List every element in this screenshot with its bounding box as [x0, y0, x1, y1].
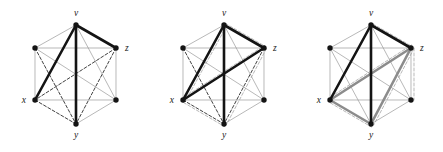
ghost-edge-v-z	[225, 24, 265, 47]
vertex-label-y: y	[368, 130, 374, 140]
vertex-label-y: y	[73, 130, 79, 140]
vertex-node-z	[113, 45, 118, 50]
vertex-node-ul	[180, 45, 185, 50]
vertex-node-v	[369, 22, 374, 27]
edge-z-y	[76, 48, 116, 124]
vertex-label-x: x	[21, 95, 27, 105]
vertex-node-lr	[113, 97, 118, 102]
ghost-edge-v-z	[373, 24, 413, 47]
vertex-node-lr	[409, 97, 414, 102]
vertex-node-z	[261, 45, 266, 50]
vertex-node-x	[180, 97, 185, 102]
panel-1: vzxy	[0, 0, 148, 152]
vertex-node-ul	[328, 45, 333, 50]
vertex-node-v	[73, 22, 78, 27]
edge-group	[330, 25, 411, 124]
vertex-label-v: v	[222, 8, 227, 18]
vertex-node-x	[328, 97, 333, 102]
edge-ul-y	[35, 48, 76, 124]
ghost-edge-x-y	[331, 103, 372, 127]
vertex-node-v	[221, 22, 226, 27]
ghost-edge-x-y	[183, 102, 224, 126]
vertex-label-x: x	[168, 95, 174, 105]
vertex-node-x	[32, 97, 37, 102]
three-hexagon-graph-figure: vzxyvzxyvzxy	[0, 0, 443, 152]
vertex-node-z	[409, 45, 414, 50]
vertex-label-z: z	[419, 43, 424, 53]
vertex-label-z: z	[124, 43, 129, 53]
panel-3-canvas: vzxy	[295, 0, 443, 152]
vertex-node-y	[221, 121, 226, 126]
vertex-node-y	[369, 121, 374, 126]
panel-3: vzxy	[295, 0, 443, 152]
vertex-label-v: v	[74, 8, 79, 18]
vertex-node-lr	[261, 97, 266, 102]
vertex-label-x: x	[316, 95, 322, 105]
vertex-node-ul	[32, 45, 37, 50]
panel-2: vzxy	[148, 0, 296, 152]
vertex-label-v: v	[369, 8, 374, 18]
vertex-label-y: y	[221, 130, 227, 140]
panel-2-canvas: vzxy	[148, 0, 296, 152]
vertex-node-y	[73, 121, 78, 126]
vertex-label-z: z	[272, 43, 277, 53]
panel-1-canvas: vzxy	[0, 0, 148, 152]
edge-group	[35, 25, 116, 124]
